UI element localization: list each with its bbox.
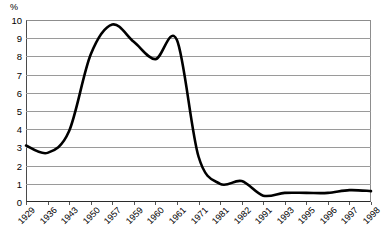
x-axis-tick-label: 1936 — [37, 205, 58, 226]
x-axis-tick-label: 1950 — [81, 205, 102, 226]
plot-area — [26, 20, 371, 202]
x-axis-tick-label: 1971 — [188, 205, 209, 226]
y-axis-tick-label: 0 — [0, 198, 22, 207]
y-axis-tick-label: 7 — [0, 71, 22, 80]
y-axis-tick-label: 5 — [0, 107, 22, 116]
y-axis-tick-label: 4 — [0, 125, 22, 134]
y-axis-unit-label: % — [10, 2, 18, 13]
x-axis-tick-label: 1998 — [361, 205, 382, 226]
y-axis-tick-label: 6 — [0, 89, 22, 98]
x-axis-tick-label: 1997 — [339, 205, 360, 226]
y-axis-tick-label: 10 — [0, 16, 22, 25]
x-axis-tick-label: 1995 — [296, 205, 317, 226]
x-axis-tick-label: 1991 — [253, 205, 274, 226]
x-axis-tick-label: 1996 — [318, 205, 339, 226]
x-axis-tick-labels: 1929193619431950195719591960196119711981… — [26, 203, 371, 242]
x-axis-tick-label: 1943 — [59, 205, 80, 226]
x-axis-tick-label: 1993 — [275, 205, 296, 226]
x-axis-tick-label: 1929 — [16, 205, 37, 226]
x-axis-tick-label: 1982 — [231, 205, 252, 226]
x-axis-tick-label: 1960 — [145, 205, 166, 226]
y-axis-tick-label: 8 — [0, 52, 22, 61]
y-axis-tick-label: 9 — [0, 34, 22, 43]
chart-container: % 109876543210 1929193619431950195719591… — [0, 0, 386, 242]
line-series-path — [26, 24, 371, 196]
x-axis-tick-label: 1961 — [167, 205, 188, 226]
x-axis-tick-label: 1981 — [210, 205, 231, 226]
x-axis-tick-label: 1957 — [102, 205, 123, 226]
x-axis-tick-mark — [371, 202, 372, 205]
y-axis-tick-label: 1 — [0, 180, 22, 189]
y-axis-tick-label: 2 — [0, 162, 22, 171]
y-axis-tick-label: 3 — [0, 143, 22, 152]
line-series-svg — [26, 20, 371, 202]
x-axis-tick-label: 1959 — [124, 205, 145, 226]
